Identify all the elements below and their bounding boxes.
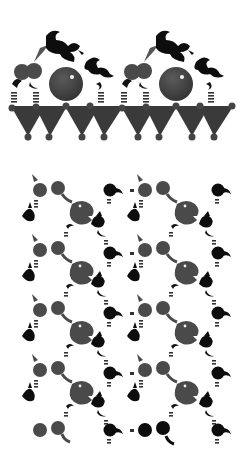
side-view-panel [0, 0, 252, 160]
gray-column-left [22, 174, 94, 442]
plan-view-panel [0, 160, 252, 475]
side-unit-1 [9, 31, 123, 141]
black-column-middle [91, 184, 134, 444]
black-column-right [199, 184, 231, 444]
molecular-structure-figure [0, 0, 252, 475]
gray-column-right [127, 174, 199, 444]
side-unit-2 [119, 31, 233, 141]
substrate-node-end [229, 103, 236, 110]
